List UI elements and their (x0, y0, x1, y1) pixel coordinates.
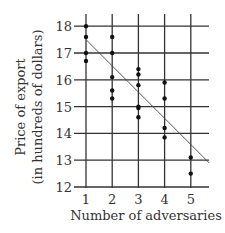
y-tick-label: 14 (55, 126, 72, 141)
scatter-chart: 1213141516171812345 Number of adversarie… (0, 0, 225, 233)
data-point (110, 35, 114, 39)
y-tick-label: 17 (55, 46, 72, 61)
data-point (110, 75, 114, 79)
data-point (136, 115, 140, 119)
data-point (84, 35, 88, 39)
y-axis-label-line1: Price of export (13, 57, 28, 155)
data-point (84, 24, 88, 28)
x-tick-label: 3 (134, 192, 142, 207)
data-point (136, 72, 140, 76)
y-tick-label: 13 (55, 153, 72, 168)
data-point (84, 59, 88, 63)
tick-labels: 1213141516171812345 (55, 19, 194, 207)
x-tick-label: 5 (187, 192, 195, 207)
x-tick-label: 1 (82, 192, 90, 207)
data-point (110, 96, 114, 100)
x-axis-label: Number of adversaries (70, 208, 222, 223)
data-point (162, 126, 166, 130)
data-point (136, 67, 140, 71)
y-tick-label: 15 (55, 100, 72, 115)
y-tick-label: 18 (55, 19, 72, 34)
data-point (162, 135, 166, 139)
data-point (110, 51, 114, 55)
data-point (136, 106, 140, 110)
data-point (162, 80, 166, 84)
data-point (162, 96, 166, 100)
data-point (84, 51, 88, 55)
data-point (136, 83, 140, 87)
data-point (189, 155, 193, 159)
y-tick-label: 16 (55, 73, 72, 88)
x-tick-label: 4 (160, 192, 168, 207)
data-point (189, 171, 193, 175)
data-point (110, 88, 114, 92)
y-tick-label: 12 (55, 180, 72, 195)
x-tick-label: 2 (108, 192, 116, 207)
grid-lines (74, 14, 209, 188)
y-axis-label-line2: (in hundreds of dollars) (30, 29, 45, 184)
